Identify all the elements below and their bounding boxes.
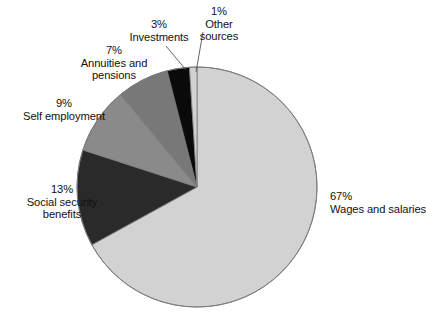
slice-name-selfemp: Self employment bbox=[6, 110, 122, 123]
slice-label-self-employment: 9% Self employment bbox=[6, 97, 122, 122]
slice-name-social: Social security bbox=[8, 196, 116, 209]
slice-label-annuities-and-pensions: 7% Annuities and pensions bbox=[56, 44, 172, 82]
slice-label-social-security-benefits: 13% Social security benefits bbox=[8, 183, 116, 221]
slice-name-other-line2: sources bbox=[186, 30, 252, 43]
slice-name-wages: Wages and salaries bbox=[330, 203, 426, 216]
slice-percent-annuities: 7% bbox=[56, 44, 172, 57]
slice-percent-wages: 67% bbox=[330, 190, 426, 203]
slice-name-annuities: Annuities and bbox=[56, 57, 172, 70]
slice-percent-other: 1% bbox=[186, 5, 252, 18]
slice-name-other: Other bbox=[186, 18, 252, 31]
slice-percent-selfemp: 9% bbox=[6, 97, 122, 110]
slice-name-annuities-line2: pensions bbox=[56, 69, 172, 82]
slice-label-other-sources: 1% Other sources bbox=[186, 5, 252, 43]
slice-percent-social: 13% bbox=[8, 183, 116, 196]
slice-name-social-line2: benefits bbox=[8, 208, 116, 221]
slice-label-wages-and-salaries: 67% Wages and salaries bbox=[330, 190, 426, 215]
